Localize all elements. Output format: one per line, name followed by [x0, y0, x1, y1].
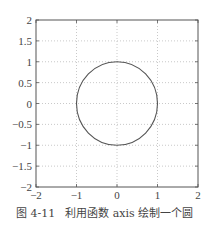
figure-number: 图 4-11 — [16, 207, 55, 220]
figure-caption: 图 4-11利用函数 axis 绘制一个圆 — [0, 204, 209, 220]
x-tick-label: −1 — [71, 189, 83, 200]
caption-text: 利用函数 axis 绘制一个圆 — [65, 207, 193, 220]
y-tick-label: −0.5 — [12, 118, 32, 130]
x-tick-label: 1 — [155, 189, 161, 200]
y-tick-label: 0 — [27, 98, 33, 110]
x-axis-tick-labels: −2−1012 — [30, 189, 201, 200]
y-tick-label: 2 — [27, 14, 33, 26]
x-tick-label: 2 — [195, 189, 201, 200]
grid-lines — [36, 20, 198, 187]
x-tick-label: 0 — [114, 189, 120, 200]
y-tick-label: 1 — [27, 56, 33, 68]
y-tick-label: 0.5 — [18, 77, 32, 89]
y-axis-tick-labels: 21.510.50−0.5−1−1.5−2 — [12, 14, 32, 193]
x-tick-label: −2 — [30, 189, 42, 200]
y-tick-label: 1.5 — [18, 35, 32, 47]
y-tick-label: −1.5 — [12, 160, 32, 172]
y-tick-label: −1 — [20, 139, 32, 151]
chart: 21.510.50−0.5−1−1.5−2 −2−1012 — [0, 0, 209, 200]
